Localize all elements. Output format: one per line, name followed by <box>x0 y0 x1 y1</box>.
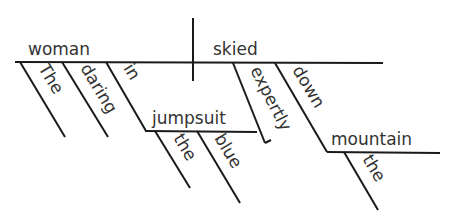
modifier-line-expertly-tail <box>265 140 271 143</box>
preposition-word-down: down <box>289 62 330 112</box>
verb-word: skied <box>213 39 258 59</box>
modifier-word-blue: blue <box>211 130 247 172</box>
modifier-word-the-2: the <box>170 130 202 164</box>
sentence-diagram: woman skied The daring in jumpsuit the b… <box>0 0 452 220</box>
modifier-word-expertly: expertly <box>246 63 296 134</box>
modifier-word-the-3: the <box>359 151 391 185</box>
main-baseline <box>15 62 383 63</box>
modifier-word-daring: daring <box>77 60 122 117</box>
object-line-jumpsuit <box>145 131 257 132</box>
object-word-mountain: mountain <box>331 129 412 149</box>
subject-word: woman <box>28 39 90 59</box>
object-word-jumpsuit: jumpsuit <box>151 108 226 128</box>
